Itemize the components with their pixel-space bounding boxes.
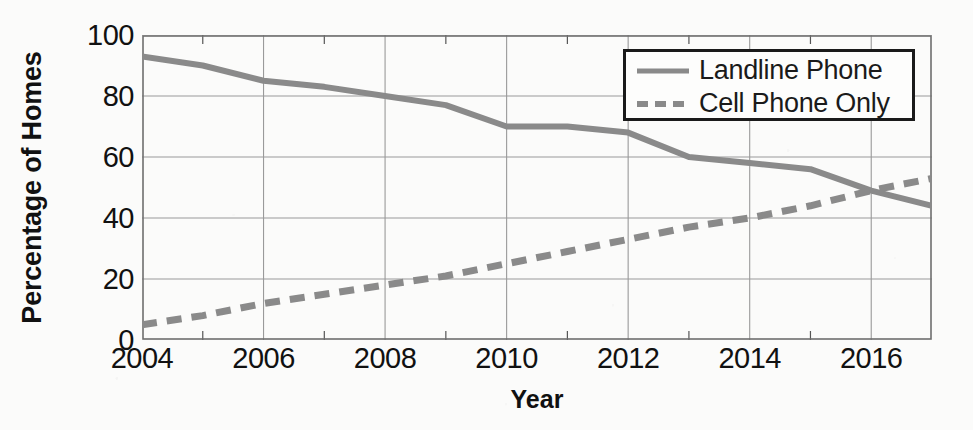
x-axis-tick-labels: 2004200620082010201220142016 [0,344,973,384]
legend-item-landline-phone: Landline Phone [626,54,912,87]
legend-label-landline-phone: Landline Phone [699,57,882,84]
solid-line-swatch [635,61,691,81]
dashed-line-swatch [635,94,691,114]
y-axis-tick-label: 100 [62,21,134,50]
x-axis-tick-label: 2012 [568,344,688,373]
series-line-cell-phone-only [142,178,932,324]
legend-label-cell-phone-only: Cell Phone Only [699,90,890,117]
x-axis-tick-label: 2006 [204,344,324,373]
chart-legend: Landline Phone Cell Phone Only [623,49,915,121]
x-axis-tick-label: 2008 [325,344,445,373]
legend-item-cell-phone-only: Cell Phone Only [626,87,912,120]
line-chart-figure: Percentage of Homes 020406080100 2004200… [0,0,973,430]
x-axis-tick-label: 2014 [690,344,810,373]
x-axis-tick-label: 2004 [82,344,202,373]
y-axis-tick-label: 40 [62,204,134,233]
x-axis-title: Year [142,385,932,414]
y-axis-title: Percentage of Homes [10,35,54,340]
x-axis-tick-label: 2016 [811,344,931,373]
y-axis-tick-label: 20 [62,265,134,294]
x-axis-tick-label: 2010 [447,344,567,373]
y-axis-tick-label: 80 [62,82,134,111]
y-axis-tick-label: 60 [62,143,134,172]
